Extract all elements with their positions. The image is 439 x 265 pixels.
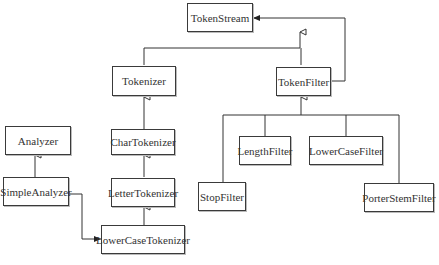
class-label: PorterStemFilter	[362, 192, 435, 204]
class-tokenstream[interactable]: TokenStream	[187, 3, 253, 32]
class-label: LowerCaseFilter	[309, 145, 383, 157]
class-lettertokenizer[interactable]: LetterTokenizer	[111, 178, 175, 207]
class-label: LengthFilter	[238, 145, 293, 157]
class-lowercasetokenizer[interactable]: LowerCaseTokenizer	[101, 225, 185, 254]
class-label: SimpleAnalyzer	[0, 186, 71, 198]
class-chartokenizer[interactable]: CharTokenizer	[111, 129, 175, 155]
class-lengthfilter[interactable]: LengthFilter	[239, 136, 291, 165]
class-label: TokenFilter	[278, 76, 329, 88]
class-stopfilter[interactable]: StopFilter	[198, 182, 246, 211]
edge-simpleanalyzer-assoc	[68, 194, 101, 239]
class-porterstemfilter[interactable]: PorterStemFilter	[364, 183, 434, 212]
class-label: StopFilter	[200, 191, 244, 203]
class-label: Tokenizer	[122, 75, 166, 87]
class-tokenizer[interactable]: Tokenizer	[112, 66, 176, 96]
class-label: TokenStream	[191, 12, 250, 24]
class-label: LowerCaseTokenizer	[96, 234, 190, 246]
class-simpleanalyzer[interactable]: SimpleAnalyzer	[3, 177, 69, 206]
class-label: Analyzer	[18, 135, 58, 147]
class-tokenfilter[interactable]: TokenFilter	[276, 67, 331, 96]
class-label: CharTokenizer	[110, 136, 175, 148]
edge-tokenizer-tokenstream	[144, 32, 300, 65]
class-label: LetterTokenizer	[108, 187, 178, 199]
class-lowercasefilter[interactable]: LowerCaseFilter	[309, 136, 383, 165]
class-analyzer[interactable]: Analyzer	[5, 126, 71, 155]
